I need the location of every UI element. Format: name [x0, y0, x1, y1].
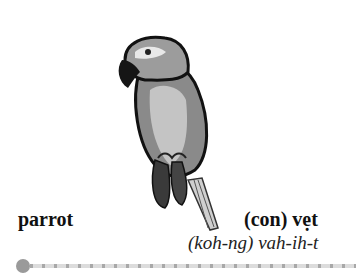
english-word: parrot	[18, 208, 73, 231]
progress-dot-icon	[16, 259, 30, 273]
parrot-illustration	[110, 30, 250, 235]
dotted-progress-line	[30, 264, 356, 268]
pronunciation: (koh-ng) vah-ih-t	[188, 232, 318, 254]
vietnamese-word: (con) vẹt	[244, 208, 318, 231]
progress-track	[16, 259, 356, 273]
